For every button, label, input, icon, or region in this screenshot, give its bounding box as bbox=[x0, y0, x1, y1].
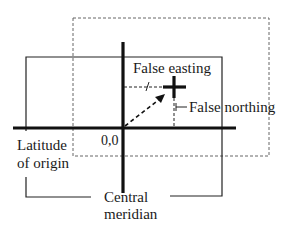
origin-label: 0,0 bbox=[101, 132, 119, 149]
false-easting-label: False easting bbox=[133, 60, 211, 77]
false-easting-northing-diagram: False easting False northing 0,0 Latitud… bbox=[0, 0, 290, 226]
latitude-of-origin-label-line1: Latitude bbox=[17, 137, 67, 154]
false-northing-label: False northing bbox=[189, 99, 275, 116]
latitude-of-origin-label-line2: of origin bbox=[17, 155, 69, 172]
central-meridian-label-line1: Central bbox=[104, 189, 148, 206]
central-meridian-label-line2: meridian bbox=[104, 206, 157, 223]
arrowhead-icon bbox=[155, 94, 165, 103]
offset-vector-dashed-arrow bbox=[125, 98, 161, 126]
latitude-leader-bracket bbox=[26, 177, 91, 197]
